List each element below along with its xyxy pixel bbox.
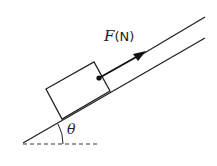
block (46, 62, 110, 119)
force-arrowhead-icon (133, 51, 146, 61)
diagram-canvas (0, 0, 217, 166)
force-application-point (96, 75, 101, 80)
incline-upper-edge (141, 17, 205, 55)
force-label: F(N) (104, 27, 134, 45)
force-arrow-shaft (99, 56, 138, 78)
force-unit: (N) (114, 29, 134, 44)
angle-label: θ (67, 121, 75, 137)
angle-arc (58, 124, 63, 144)
incline-diagram: F(N) θ (0, 0, 217, 166)
force-variable: F (104, 27, 114, 45)
